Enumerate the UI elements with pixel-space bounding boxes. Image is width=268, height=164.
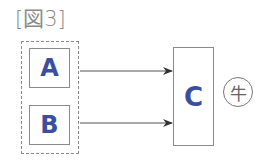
- circled-annotation: 牛: [223, 77, 253, 107]
